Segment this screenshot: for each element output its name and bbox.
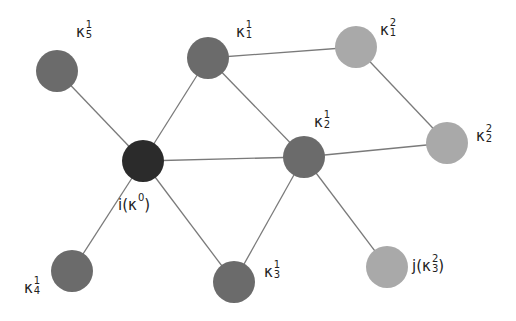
node-k1_1 [187, 37, 229, 79]
label-subscript: 3 [274, 270, 280, 280]
nodes-layer [36, 26, 468, 303]
node-label-k3_1: κ13 [264, 262, 280, 282]
node-label-k4_1: κ14 [24, 278, 40, 298]
label-suffix: ) [144, 198, 150, 213]
label-symbol: κ [476, 129, 485, 144]
label-symbol: κ [128, 198, 137, 213]
edge-i-k3_1 [143, 161, 234, 282]
node-label-k5_1: κ15 [76, 22, 92, 42]
node-label-k2_2: κ22 [476, 126, 492, 146]
edge-i-k2_1 [143, 157, 304, 161]
label-subscript: 2 [486, 134, 492, 144]
label-prefix: i( [118, 198, 128, 213]
label-scripts: 0 [138, 193, 144, 213]
node-k4_1 [51, 250, 93, 292]
label-symbol: κ [264, 265, 273, 280]
edge-k2_1-k2_2 [304, 143, 447, 157]
label-scripts: 11 [246, 20, 252, 40]
label-scripts: 21 [390, 18, 396, 38]
label-subscript: 1 [390, 28, 396, 38]
label-symbol: κ [314, 115, 323, 130]
label-symbol: κ [76, 25, 85, 40]
label-scripts: 12 [324, 110, 330, 130]
node-label-k1_1: κ11 [236, 22, 252, 42]
node-i [122, 140, 164, 182]
label-scripts: 22 [486, 124, 492, 144]
node-k5_1 [36, 50, 78, 92]
label-scripts: 15 [86, 20, 92, 40]
label-subscript [138, 203, 144, 213]
node-k2_1 [283, 136, 325, 178]
label-symbol: κ [422, 259, 431, 274]
label-subscript: 5 [86, 30, 92, 40]
label-subscript: 2 [324, 120, 330, 130]
label-symbol: κ [236, 25, 245, 40]
label-prefix: j( [412, 259, 422, 274]
node-label-j: j(κ23) [412, 256, 444, 276]
label-suffix: ) [438, 259, 444, 274]
label-symbol: κ [24, 281, 33, 296]
node-k1_2 [335, 26, 377, 68]
label-subscript: 3 [432, 264, 438, 274]
label-subscript: 4 [34, 286, 40, 296]
node-k2_2 [426, 122, 468, 164]
node-label-k2_1: κ12 [314, 112, 330, 132]
label-symbol: κ [380, 23, 389, 38]
node-j [366, 246, 408, 288]
node-k3_1 [213, 261, 255, 303]
label-scripts: 13 [274, 260, 280, 280]
label-scripts: 14 [34, 276, 40, 296]
edge-k1_1-k1_2 [208, 47, 356, 58]
node-label-k1_2: κ21 [380, 20, 396, 40]
node-label-i: i(κ0 ) [118, 195, 150, 215]
label-subscript: 1 [246, 30, 252, 40]
label-scripts: 23 [432, 254, 438, 274]
